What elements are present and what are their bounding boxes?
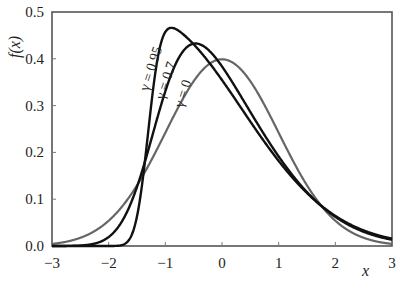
- plot-frame: [52, 12, 392, 246]
- x-tick-label: 1: [275, 255, 283, 271]
- x-tick-label: −2: [101, 255, 117, 271]
- x-tick-label: 3: [388, 255, 396, 271]
- x-tick-label: 0: [218, 255, 226, 271]
- axis-ticks: −3−2−101230.00.10.20.30.40.5: [25, 4, 396, 271]
- y-tick-label: 0.1: [25, 191, 44, 207]
- y-tick-label: 0.2: [25, 144, 44, 160]
- x-tick-label: −3: [44, 255, 60, 271]
- x-axis-title: x: [361, 262, 369, 279]
- curve-label: γ = 0: [171, 78, 194, 110]
- curves: [52, 28, 392, 246]
- y-tick-label: 0.0: [25, 238, 44, 254]
- curve-gamma-0: [52, 59, 392, 244]
- y-tick-label: 0.4: [25, 51, 44, 67]
- y-tick-label: 0.3: [25, 98, 44, 114]
- y-axis-title: f(x): [6, 36, 24, 58]
- y-tick-label: 0.5: [25, 4, 44, 20]
- curve-gamma-0_7: [52, 44, 392, 246]
- curve-labels: γ = 0.95γ = 0.7γ = 0: [136, 45, 194, 111]
- plot-border: [52, 12, 392, 246]
- x-tick-label: 2: [332, 255, 340, 271]
- skew-normal-density-chart: −3−2−101230.00.10.20.30.40.5 γ = 0.95γ =…: [0, 0, 403, 292]
- x-tick-label: −1: [157, 255, 173, 271]
- curve-gamma-0_95: [52, 28, 392, 246]
